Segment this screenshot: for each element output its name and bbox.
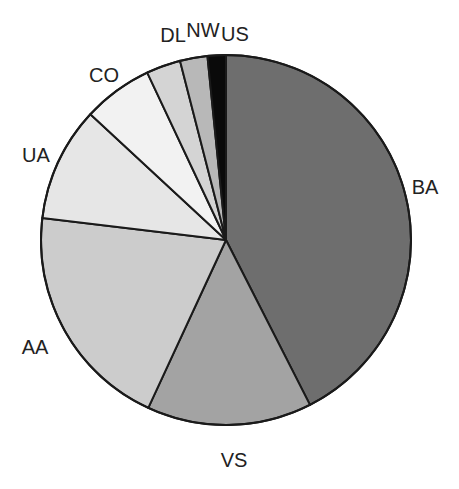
pie-slices — [41, 55, 411, 425]
label-aa: AA — [22, 337, 49, 357]
label-ba: BA — [412, 177, 439, 197]
label-dl: DL — [160, 25, 186, 45]
label-co: CO — [89, 65, 119, 85]
label-us: US — [221, 24, 249, 44]
label-nw: NW — [186, 20, 219, 40]
pie-chart — [0, 0, 459, 489]
label-vs: VS — [221, 450, 248, 470]
label-ua: UA — [22, 145, 50, 165]
